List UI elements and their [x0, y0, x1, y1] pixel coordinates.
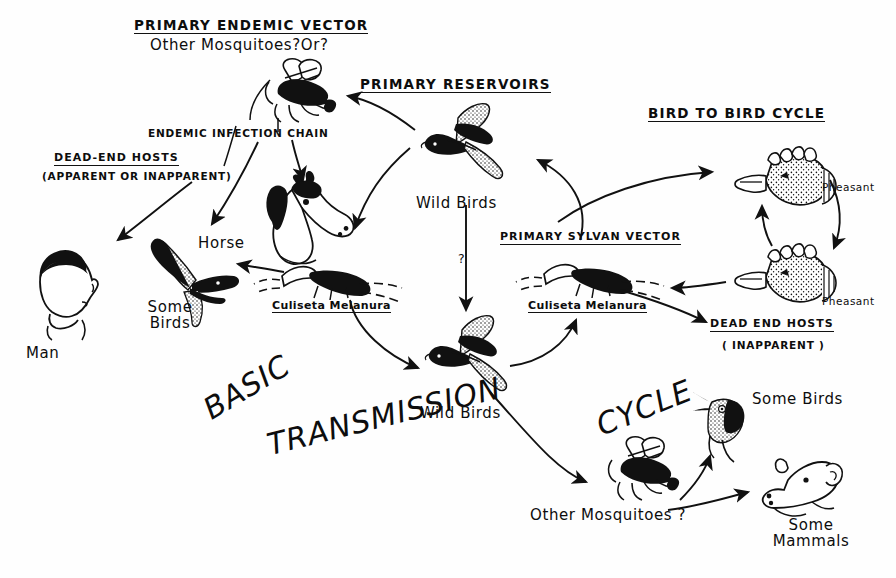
diagram-title: BASIC TRANSMISSION CYCLE [0, 0, 896, 578]
title-word-cycle: CYCLE [592, 374, 697, 441]
title-word-basic: BASIC [198, 349, 296, 425]
title-word-transmission: TRANSMISSION [264, 372, 504, 461]
diagram-canvas: PRIMARY ENDEMIC VECTOR Other Mosquitoes?… [0, 0, 896, 578]
